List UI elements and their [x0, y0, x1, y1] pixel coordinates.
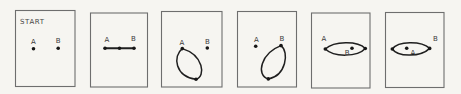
point-b-label: B [205, 38, 210, 46]
panel-start: START A B [16, 11, 76, 87]
point-b-label: B [433, 35, 438, 43]
point-b-dot [428, 47, 432, 51]
point-b-label: B [56, 37, 61, 45]
panel-loop-from-b: A B [238, 12, 297, 88]
midpoint-dot [194, 77, 198, 81]
loop-curve [177, 49, 202, 80]
panel-border [238, 12, 297, 88]
panel-border [162, 12, 223, 88]
point-a-label: A [322, 35, 327, 43]
point-a-dot [32, 47, 36, 51]
point-a-label: A [180, 39, 185, 47]
figure-canvas: START A B A B A B [0, 0, 461, 94]
panel-eye-enclosing-a: B A [386, 13, 445, 88]
point-a-label: A [105, 36, 110, 44]
point-b-dot [132, 46, 136, 50]
panel-eye-enclosing-b: A B [312, 13, 371, 88]
panel-loop-from-a: A B [162, 12, 223, 88]
point-b-dot [56, 46, 60, 50]
point-b-label: B [280, 35, 285, 43]
point-a-dot [405, 46, 409, 50]
point-a-dot [254, 45, 258, 49]
loop-curve [261, 46, 285, 79]
point-b-label: B [131, 35, 136, 43]
midpoint-dot [364, 47, 368, 51]
midpoint-dot [267, 77, 271, 81]
point-b-dot [279, 44, 283, 48]
point-a-label: A [31, 38, 36, 46]
midpoint-dot [391, 47, 395, 51]
point-a-dot [324, 47, 328, 51]
panel-line: A B [91, 13, 148, 87]
point-a-dot [103, 46, 107, 50]
point-b-label: B [345, 49, 350, 57]
point-a-label: A [411, 49, 416, 57]
point-b-dot [350, 46, 354, 50]
line-deformation-figure: START A B A B A B [0, 0, 461, 94]
panel-border [91, 13, 148, 87]
midpoint-dot [118, 46, 122, 50]
point-a-dot [181, 47, 185, 51]
panel-border [312, 13, 371, 88]
start-caption: START [20, 18, 45, 26]
point-b-dot [206, 46, 210, 50]
point-a-label: A [254, 36, 259, 44]
